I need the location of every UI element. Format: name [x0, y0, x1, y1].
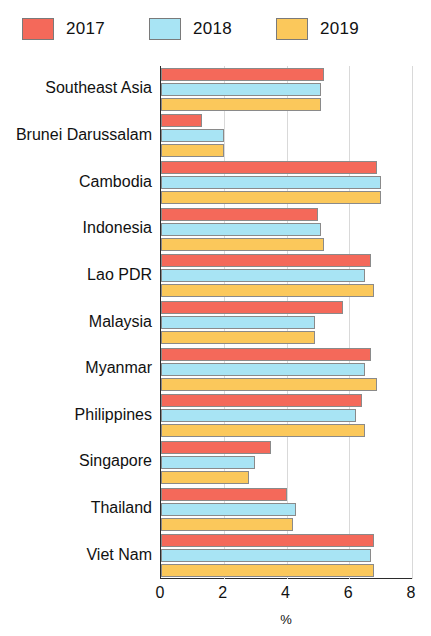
- bar-2017[interactable]: [161, 68, 324, 81]
- bar-2019[interactable]: [161, 98, 321, 111]
- bar-group: [161, 439, 412, 486]
- legend-item-label: 2019: [320, 19, 359, 39]
- bar-group: [161, 532, 412, 579]
- x-axis-title: %: [160, 612, 412, 627]
- bar-2017[interactable]: [161, 254, 371, 267]
- bar-2018[interactable]: [161, 456, 255, 469]
- legend-item-2017[interactable]: 2017: [22, 18, 105, 40]
- bar-group: [161, 113, 412, 160]
- bar-2017[interactable]: [161, 114, 202, 127]
- chart-legend: 201720182019: [22, 14, 412, 44]
- bar-group: [161, 299, 412, 346]
- bar-2018[interactable]: [161, 83, 321, 96]
- category-axis-labels: Southeast AsiaBrunei DarussalamCambodiaI…: [0, 66, 152, 579]
- category-label: Brunei Darussalam: [2, 126, 152, 144]
- legend-swatch-icon: [22, 18, 54, 40]
- bar-group: [161, 206, 412, 253]
- bar-2017[interactable]: [161, 301, 343, 314]
- bar-2017[interactable]: [161, 488, 287, 501]
- category-label: Malaysia: [2, 313, 152, 331]
- bar-2017[interactable]: [161, 208, 318, 221]
- bar-2017[interactable]: [161, 394, 362, 407]
- bar-2017[interactable]: [161, 348, 371, 361]
- category-label: Singapore: [2, 452, 152, 470]
- category-label: Viet Nam: [2, 546, 152, 564]
- legend-item-label: 2018: [193, 19, 232, 39]
- bar-group: [161, 486, 412, 533]
- category-label: Southeast Asia: [2, 79, 152, 97]
- bar-2019[interactable]: [161, 144, 224, 157]
- bar-group: [161, 66, 412, 113]
- bar-2019[interactable]: [161, 471, 249, 484]
- bar-2019[interactable]: [161, 191, 381, 204]
- bar-2017[interactable]: [161, 161, 377, 174]
- bar-2018[interactable]: [161, 316, 315, 329]
- bar-2019[interactable]: [161, 378, 377, 391]
- bar-2017[interactable]: [161, 534, 374, 547]
- x-tick-label: 4: [281, 584, 290, 602]
- x-axis-ticks: 02468: [160, 580, 412, 606]
- legend-swatch-icon: [276, 18, 308, 40]
- bar-2018[interactable]: [161, 176, 381, 189]
- category-label: Lao PDR: [2, 266, 152, 284]
- bar-2017[interactable]: [161, 441, 271, 454]
- bar-2018[interactable]: [161, 363, 365, 376]
- bar-2019[interactable]: [161, 518, 293, 531]
- category-label: Cambodia: [2, 173, 152, 191]
- category-label: Myanmar: [2, 359, 152, 377]
- x-tick-label: 2: [218, 584, 227, 602]
- legend-item-2019[interactable]: 2019: [276, 18, 359, 40]
- bar-2018[interactable]: [161, 269, 365, 282]
- legend-item-label: 2017: [66, 19, 105, 39]
- bar-group: [161, 346, 412, 393]
- legend-item-2018[interactable]: 2018: [149, 18, 232, 40]
- bar-2018[interactable]: [161, 503, 296, 516]
- category-label: Indonesia: [2, 219, 152, 237]
- bar-2019[interactable]: [161, 424, 365, 437]
- bar-2019[interactable]: [161, 284, 374, 297]
- bar-chart: 201720182019 Southeast AsiaBrunei Daruss…: [0, 0, 431, 636]
- bar-2019[interactable]: [161, 238, 324, 251]
- plot-area: [160, 66, 412, 579]
- category-label: Philippines: [2, 406, 152, 424]
- bar-2018[interactable]: [161, 409, 356, 422]
- bar-2018[interactable]: [161, 223, 321, 236]
- bar-group: [161, 392, 412, 439]
- legend-swatch-icon: [149, 18, 181, 40]
- bar-group: [161, 253, 412, 300]
- bar-2019[interactable]: [161, 331, 315, 344]
- x-tick-label: 8: [407, 584, 416, 602]
- gridline: [412, 66, 413, 579]
- bar-2018[interactable]: [161, 129, 224, 142]
- x-tick-label: 0: [156, 584, 165, 602]
- category-label: Thailand: [2, 499, 152, 517]
- x-tick-label: 6: [344, 584, 353, 602]
- bar-2018[interactable]: [161, 549, 371, 562]
- bar-2019[interactable]: [161, 564, 374, 577]
- bar-group: [161, 159, 412, 206]
